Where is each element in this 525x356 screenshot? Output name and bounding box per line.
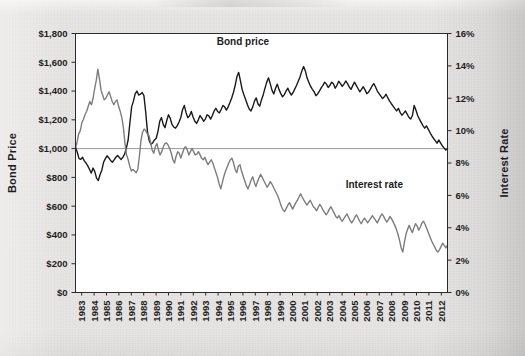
x-axis-tick-label: 1996 xyxy=(237,301,248,322)
x-axis-tick-label: 1998 xyxy=(262,301,273,322)
dual-axis-line-chart: $0$200$400$600$800$1,000$1,200$1,400$1,6… xyxy=(0,0,525,356)
chart-svg: $0$200$400$600$800$1,000$1,200$1,400$1,6… xyxy=(0,0,525,356)
x-axis-tick-label: 2008 xyxy=(386,301,397,322)
x-axis-tick-label: 1986 xyxy=(113,301,124,322)
x-axis-tick-label: 2004 xyxy=(337,300,348,322)
x-axis-tick-label: 2012 xyxy=(436,301,447,322)
x-axis-tick-label: 1992 xyxy=(188,301,199,322)
y-axis-left-tick-label: $1,400 xyxy=(38,85,67,96)
x-axis-tick-label: 2011 xyxy=(423,300,434,321)
x-axis-tick-label: 1994 xyxy=(213,300,224,322)
y-axis-left-tick-label: $1,800 xyxy=(38,28,67,39)
y-axis-right-tick-label: 2% xyxy=(456,255,470,266)
x-axis-tick-label: 2005 xyxy=(349,300,360,322)
y-axis-right-tick-label: 10% xyxy=(456,125,476,136)
x-axis-tick-label: 1991 xyxy=(175,300,186,322)
y-axis-left-ticks: $0$200$400$600$800$1,000$1,200$1,400$1,6… xyxy=(38,28,75,298)
y-axis-right-tick-label: 4% xyxy=(456,222,470,233)
y-axis-right-tick-label: 0% xyxy=(456,287,470,298)
y-axis-left-tick-label: $200 xyxy=(46,258,67,269)
x-axis-tick-label: 1987 xyxy=(126,301,137,322)
annotation-bond-price: Bond price xyxy=(217,36,270,47)
y-axis-left-tick-label: $1,000 xyxy=(38,143,67,154)
x-axis-tick-label: 1984 xyxy=(89,300,100,322)
x-axis-tick-label: 1995 xyxy=(225,300,236,322)
x-axis-tick-label: 1988 xyxy=(138,301,149,322)
y-axis-left-tick-label: $1,200 xyxy=(38,114,67,125)
y-axis-left-tick-label: $400 xyxy=(46,229,67,240)
y-axis-right-tick-label: 8% xyxy=(456,157,470,168)
x-axis-tick-label: 1993 xyxy=(200,301,211,322)
annotation-interest-rate: Interest rate xyxy=(346,179,404,190)
x-axis-tick-label: 1983 xyxy=(76,301,87,322)
x-axis-tick-label: 1990 xyxy=(163,301,174,322)
x-axis-ticks: 1983198419851986198719881989199019911992… xyxy=(76,293,447,322)
plot-area xyxy=(76,34,448,293)
x-axis-tick-label: 2007 xyxy=(374,301,385,322)
y-axis-right-title: Interest Rate xyxy=(498,128,510,197)
x-axis-tick-label: 1989 xyxy=(151,301,162,322)
y-axis-right-tick-label: 16% xyxy=(456,28,476,39)
y-axis-right-tick-label: 12% xyxy=(456,93,476,104)
x-axis-tick-label: 2001 xyxy=(299,300,310,322)
x-axis-tick-label: 2000 xyxy=(287,301,298,322)
x-axis-tick-label: 2009 xyxy=(399,301,410,322)
y-axis-right-tick-label: 6% xyxy=(456,190,470,201)
x-axis-tick-label: 2006 xyxy=(361,301,372,322)
y-axis-right-tick-label: 14% xyxy=(456,60,476,71)
plot-background xyxy=(76,34,448,293)
y-axis-left-tick-label: $0 xyxy=(57,287,68,298)
x-axis-tick-label: 1985 xyxy=(101,300,112,322)
y-axis-left-title: Bond Price xyxy=(6,133,18,193)
y-axis-left-tick-label: $800 xyxy=(46,172,67,183)
y-axis-left-tick-label: $600 xyxy=(46,201,67,212)
x-axis-tick-label: 1997 xyxy=(250,301,261,322)
y-axis-right-ticks: 0%2%4%6%8%10%12%14%16% xyxy=(448,28,476,298)
x-axis-tick-label: 2003 xyxy=(324,301,335,322)
x-axis-tick-label: 1999 xyxy=(275,301,286,322)
x-axis-tick-label: 2002 xyxy=(312,301,323,322)
x-axis-tick-label: 2010 xyxy=(411,301,422,322)
y-axis-left-tick-label: $1,600 xyxy=(38,57,67,68)
